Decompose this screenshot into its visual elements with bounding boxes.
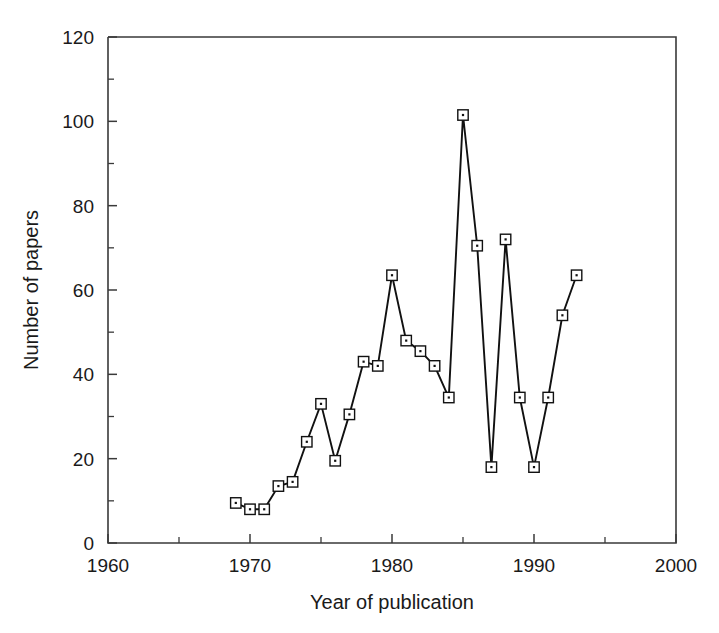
data-point-marker	[302, 437, 312, 447]
data-point-marker	[557, 310, 567, 320]
plot-axes-frame	[108, 37, 676, 543]
y-axis-ticks	[108, 37, 117, 543]
y-tick-label: 0	[83, 533, 94, 554]
data-point-marker	[458, 110, 468, 120]
data-point-marker	[472, 241, 482, 251]
data-point-marker	[500, 234, 510, 244]
x-axis-tick-labels: 19601970198019902000	[87, 555, 697, 576]
line-chart: 020406080100120 19601970198019902000 Yea…	[0, 0, 719, 633]
data-point-marker	[231, 498, 241, 508]
data-point-marker	[259, 504, 269, 514]
x-tick-label: 1980	[371, 555, 413, 576]
data-point-marker	[316, 399, 326, 409]
data-point-marker	[543, 392, 553, 402]
x-axis-title: Year of publication	[310, 591, 474, 613]
data-point-marker	[373, 361, 383, 371]
data-point-marker	[358, 356, 368, 366]
y-tick-label: 20	[73, 449, 94, 470]
data-point-marker	[401, 335, 411, 345]
y-tick-label: 40	[73, 364, 94, 385]
data-point-marker	[415, 346, 425, 356]
data-point-marker	[571, 270, 581, 280]
data-point-marker	[245, 504, 255, 514]
data-point-marker	[515, 392, 525, 402]
data-point-markers	[231, 110, 582, 515]
y-tick-label: 60	[73, 280, 94, 301]
data-point-marker	[344, 409, 354, 419]
data-point-marker	[387, 270, 397, 280]
x-axis-ticks	[108, 534, 676, 543]
y-tick-label: 100	[62, 111, 94, 132]
x-tick-label: 2000	[655, 555, 697, 576]
data-point-marker	[429, 361, 439, 371]
data-point-marker	[529, 462, 539, 472]
data-series-line	[236, 115, 577, 509]
y-axis-title: Number of papers	[20, 210, 42, 370]
x-tick-label: 1990	[513, 555, 555, 576]
data-point-marker	[444, 392, 454, 402]
x-tick-label: 1970	[229, 555, 271, 576]
data-point-marker	[486, 462, 496, 472]
data-point-marker	[287, 477, 297, 487]
y-tick-label: 120	[62, 27, 94, 48]
y-tick-label: 80	[73, 196, 94, 217]
data-point-marker	[330, 456, 340, 466]
x-tick-label: 1960	[87, 555, 129, 576]
chart-figure: 020406080100120 19601970198019902000 Yea…	[0, 0, 719, 633]
y-axis-tick-labels: 020406080100120	[62, 27, 94, 554]
data-point-marker	[273, 481, 283, 491]
